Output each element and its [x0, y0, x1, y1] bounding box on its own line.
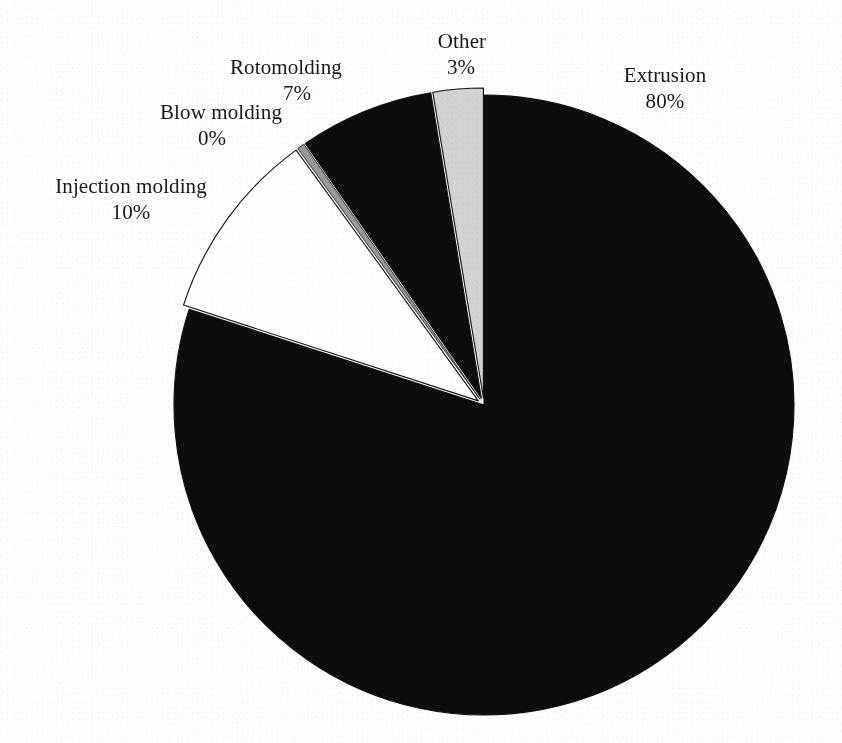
slice-label-extrusion-value: 80%	[580, 89, 750, 115]
slice-label-other-name: Other	[382, 29, 542, 55]
slice-label-other: Other 3%	[382, 29, 542, 80]
pie-chart-figure: Other 3% Extrusion 80% Rotomolding 7% Bl…	[0, 0, 842, 743]
pie-slice-group	[174, 88, 794, 715]
slice-label-rotomolding: Rotomolding 7%	[196, 55, 376, 106]
slice-label-extrusion: Extrusion 80%	[580, 63, 750, 114]
slice-label-injection-molding: Injection molding 10%	[18, 174, 244, 225]
slice-label-rotomolding-name: Rotomolding	[196, 55, 376, 81]
slice-label-injection-molding-value: 10%	[18, 200, 244, 226]
slice-label-other-value: 3%	[381, 55, 541, 81]
slice-label-extrusion-name: Extrusion	[580, 63, 750, 89]
slice-label-blow-molding-name: Blow molding	[128, 100, 314, 126]
slice-label-blow-molding: Blow molding 0%	[128, 100, 314, 151]
slice-label-injection-molding-name: Injection molding	[18, 174, 244, 200]
slice-label-blow-molding-value: 0%	[119, 126, 305, 152]
